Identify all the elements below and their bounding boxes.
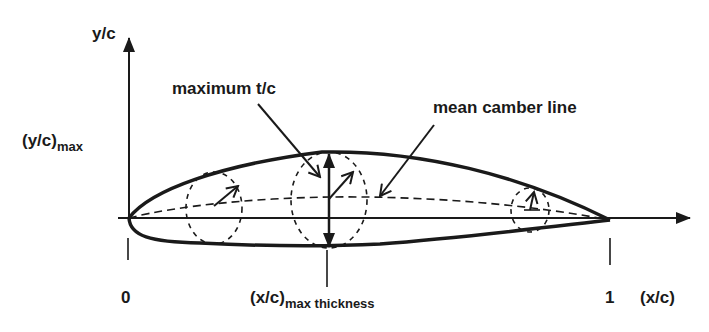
y-max-label: (y/c)max — [22, 131, 84, 154]
mean-camber-label: mean camber line — [433, 98, 577, 117]
y-max-label-main: (y/c) — [22, 131, 57, 150]
airfoil-lower-surface — [129, 218, 610, 246]
max-tc-leader — [258, 104, 320, 177]
x-max-label-sub: max thickness — [285, 296, 375, 311]
tick-zero-label: 0 — [121, 288, 130, 307]
inscribed-circle-front — [186, 172, 242, 244]
x-axis-label: (x/c) — [640, 288, 675, 307]
radius-arrow-max — [329, 172, 353, 199]
x-max-thickness-label: (x/c)max thickness — [250, 288, 375, 311]
y-max-label-sub: max — [57, 139, 84, 154]
y-axis-label: y/c — [92, 24, 116, 43]
airfoil-diagram: y/c (y/c)max maximum t/c mean camber lin… — [0, 0, 709, 332]
tick-one-label: 1 — [605, 288, 614, 307]
x-max-label-main: (x/c) — [250, 288, 285, 307]
mean-camber-line — [129, 197, 610, 220]
max-tc-label: maximum t/c — [172, 79, 276, 98]
